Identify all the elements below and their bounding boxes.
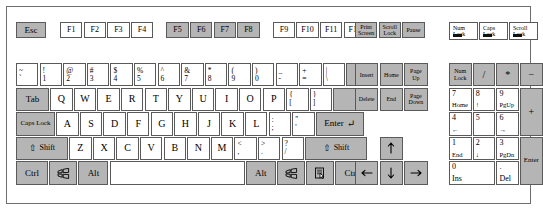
key-9[interactable]: (9: [228, 63, 250, 86]
key-f11[interactable]: F11: [320, 22, 342, 38]
key-c[interactable]: C: [116, 137, 138, 160]
key-n[interactable]: N: [187, 137, 209, 160]
key-f4[interactable]: F4: [131, 22, 153, 38]
key-equals[interactable]: +=: [299, 63, 321, 86]
key-numpad-plus[interactable]: +: [520, 88, 543, 136]
key-numpad-2[interactable]: 2↓: [473, 137, 496, 160]
key-backslash[interactable]: |\: [323, 63, 345, 86]
key-5[interactable]: %5: [134, 63, 156, 86]
key-k[interactable]: K: [221, 112, 243, 135]
key-l[interactable]: L: [245, 112, 267, 135]
key-quote[interactable]: "': [292, 112, 314, 135]
key-end[interactable]: End: [380, 88, 403, 111]
key-x[interactable]: X: [93, 137, 115, 160]
key-comma[interactable]: <,: [234, 137, 256, 160]
key-f1[interactable]: F1: [60, 22, 82, 38]
key-b[interactable]: B: [164, 137, 186, 160]
key-numpad-0[interactable]: 0Ins: [449, 161, 495, 184]
key-z[interactable]: Z: [69, 137, 91, 160]
key-7[interactable]: &7: [181, 63, 203, 86]
key-numpad-1[interactable]: 1End: [449, 137, 472, 160]
key-numpad-5[interactable]: 5: [473, 112, 496, 135]
key-numpad-6[interactable]: 6→: [496, 112, 519, 135]
key-page-down[interactable]: PageDown: [404, 88, 427, 111]
key-d[interactable]: D: [103, 112, 125, 135]
key-period[interactable]: >.: [258, 137, 280, 160]
key-4[interactable]: $4: [110, 63, 132, 86]
key-3[interactable]: #3: [87, 63, 109, 86]
key-bracket-right[interactable]: }]: [310, 88, 332, 111]
key-6[interactable]: ^6: [158, 63, 180, 86]
key-f10[interactable]: F10: [296, 22, 318, 38]
key-s[interactable]: S: [80, 112, 102, 135]
key-numpad-divide[interactable]: /: [473, 63, 496, 86]
key-menu[interactable]: [306, 161, 334, 184]
key-f3[interactable]: F3: [107, 22, 129, 38]
key-pause[interactable]: Pause: [402, 22, 424, 38]
key-semicolon[interactable]: :;: [269, 112, 291, 135]
key-q[interactable]: Q: [50, 88, 72, 111]
key-enter[interactable]: Enter↵: [316, 112, 364, 135]
key-0[interactable]: )0: [252, 63, 274, 86]
key-numpad-3[interactable]: 3PgDn: [496, 137, 519, 160]
key-r[interactable]: R: [121, 88, 143, 111]
key-j[interactable]: J: [198, 112, 220, 135]
key-o[interactable]: O: [239, 88, 261, 111]
key-y[interactable]: Y: [168, 88, 190, 111]
key-print-screen[interactable]: PrintScreen: [355, 22, 377, 38]
key-e[interactable]: E: [97, 88, 119, 111]
key-numpad-decimal[interactable]: .Del: [496, 161, 519, 184]
key-t[interactable]: T: [145, 88, 167, 111]
key-h[interactable]: H: [174, 112, 196, 135]
key-windows-right[interactable]: [277, 161, 305, 184]
key-1[interactable]: !1: [40, 63, 62, 86]
key-arrow-up[interactable]: [380, 137, 403, 160]
key-v[interactable]: V: [140, 137, 162, 160]
key-arrow-right[interactable]: [404, 161, 427, 184]
key-f2[interactable]: F2: [84, 22, 106, 38]
key-shift-right[interactable]: ⇧Shift: [305, 137, 367, 160]
key-space[interactable]: [110, 161, 245, 184]
key-numpad-7[interactable]: 7Home: [449, 88, 472, 111]
key-m[interactable]: M: [211, 137, 233, 160]
key-arrow-down[interactable]: [380, 161, 403, 184]
key-f6[interactable]: F6: [190, 22, 212, 38]
key-p[interactable]: P: [263, 88, 285, 111]
key-page-up[interactable]: PageUp: [404, 63, 427, 86]
key-minus[interactable]: _-: [276, 63, 298, 86]
key-home[interactable]: Home: [380, 63, 403, 86]
key-alt-left[interactable]: Alt: [78, 161, 108, 184]
key-u[interactable]: U: [192, 88, 214, 111]
key-g[interactable]: G: [151, 112, 173, 135]
key-ctrl-left[interactable]: Ctrl: [16, 161, 48, 184]
key-i[interactable]: I: [215, 88, 237, 111]
key-scroll-lock[interactable]: ScrollLock: [379, 22, 401, 38]
key-f9[interactable]: F9: [273, 22, 295, 38]
key-numpad-9[interactable]: 9PgUp: [496, 88, 519, 111]
key-numpad-4[interactable]: 4←: [449, 112, 472, 135]
key-f7[interactable]: F7: [214, 22, 236, 38]
key-bracket-left[interactable]: {[: [286, 88, 308, 111]
key-arrow-left[interactable]: [355, 161, 378, 184]
key-f8[interactable]: F8: [237, 22, 259, 38]
key-num-lock[interactable]: NumLock: [449, 63, 472, 86]
key-a[interactable]: A: [56, 112, 78, 135]
key-numpad-8[interactable]: 8↑: [473, 88, 496, 111]
key-w[interactable]: W: [74, 88, 96, 111]
key-grave[interactable]: ~`: [16, 63, 38, 86]
key-shift-left[interactable]: ⇧Shift: [16, 137, 68, 160]
key-tab[interactable]: Tab: [16, 88, 49, 111]
key-caps-lock[interactable]: Caps Lock: [16, 112, 55, 135]
key-insert[interactable]: Insert: [355, 63, 378, 86]
key-slash[interactable]: ?/: [282, 137, 304, 160]
key-2[interactable]: @2: [63, 63, 85, 86]
key-windows-left[interactable]: [49, 161, 77, 184]
key-esc[interactable]: Esc: [16, 22, 46, 38]
key-alt-right[interactable]: Alt: [246, 161, 276, 184]
key-numpad-multiply[interactable]: *: [496, 63, 519, 86]
key-numpad-minus[interactable]: −: [520, 63, 543, 86]
key-8[interactable]: *8: [205, 63, 227, 86]
key-f[interactable]: F: [127, 112, 149, 135]
key-numpad-enter[interactable]: Enter: [520, 137, 543, 185]
key-delete[interactable]: Delete: [355, 88, 378, 111]
